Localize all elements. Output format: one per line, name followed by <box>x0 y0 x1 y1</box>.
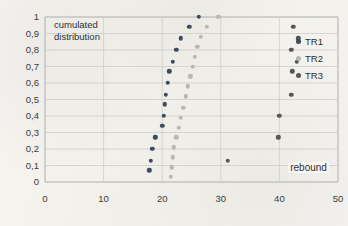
y-tick-label: 0,5 <box>6 94 39 105</box>
legend-item-tr3[interactable]: TR3 <box>296 70 323 81</box>
y-tick-label: 0,2 <box>6 143 39 154</box>
x-tick-label: 50 <box>318 193 348 204</box>
cumulated-distribution-scatter-chart: cumulated distribution 00,10,20,30,40,50… <box>0 0 348 226</box>
x-tick-label: 30 <box>201 193 241 204</box>
x-tick-label: 40 <box>259 193 299 204</box>
x-tick-label: 20 <box>142 193 182 204</box>
x-axis-title: rebound <box>288 162 329 173</box>
y-tick-label: 0,7 <box>6 61 39 72</box>
legend-marker-icon <box>296 56 301 61</box>
y-tick-label: 0,6 <box>6 77 39 88</box>
y-tick-label: 0 <box>6 176 39 187</box>
legend-item-tr1[interactable]: TR1 <box>296 36 323 47</box>
y-tick-label: 0,8 <box>6 44 39 55</box>
x-tick-label: 10 <box>84 193 124 204</box>
legend-marker-icon <box>296 39 301 44</box>
x-tick-label: 0 <box>25 193 65 204</box>
y-tick-label: 0,4 <box>6 110 39 121</box>
y-tick-label: 0,9 <box>6 28 39 39</box>
plot-title: cumulated distribution <box>54 19 100 43</box>
legend-marker-icon <box>296 73 301 78</box>
y-tick-label: 1 <box>6 11 39 22</box>
legend-label: TR3 <box>305 70 323 81</box>
legend-label: TR1 <box>305 36 323 47</box>
y-tick-label: 0,3 <box>6 127 39 138</box>
y-tick-label: 0,1 <box>6 160 39 171</box>
legend-item-tr2[interactable]: TR2 <box>296 53 323 64</box>
legend-label: TR2 <box>305 53 323 64</box>
